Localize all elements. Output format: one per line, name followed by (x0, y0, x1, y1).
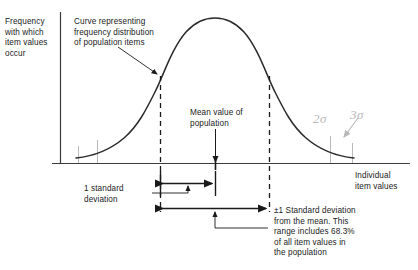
three-sigma-marker: 3σ (350, 107, 364, 123)
y-axis-label: Frequency with which item values occur (5, 17, 57, 59)
mean-value-label: Mean value of population (190, 108, 280, 129)
curve-description-label: Curve representing frequency distributio… (74, 17, 189, 49)
one-sigma-measure-bar (152, 171, 216, 196)
curve-label-leader-arrow (118, 47, 157, 74)
x-axis-label: Individual item values (355, 171, 415, 192)
figure-canvas: Frequency with which item values occur C… (0, 0, 418, 270)
two-sigma-marker: 2σ (313, 111, 327, 127)
plus-minus-one-sigma-measure-bar (163, 209, 268, 229)
one-standard-deviation-label: 1 standard deviation (84, 184, 154, 205)
range-coverage-note: ±1 Standard deviation from the mean. Thi… (274, 206, 412, 259)
